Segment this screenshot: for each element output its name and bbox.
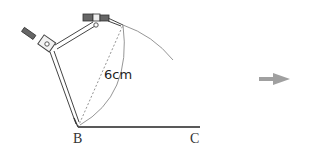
point-label-b: B — [73, 132, 82, 146]
arrow-right-icon — [259, 73, 290, 85]
point-label-c: C — [190, 132, 199, 146]
arc-outer — [123, 25, 173, 60]
measurement-label: 6cm — [104, 68, 132, 81]
diagram-canvas — [0, 0, 309, 153]
